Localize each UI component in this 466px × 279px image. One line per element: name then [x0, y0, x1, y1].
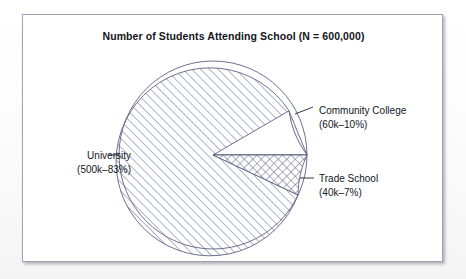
slice-label-trade-school-value: (40k–7%)	[319, 186, 378, 200]
slice-label-university-name: University	[77, 149, 131, 163]
slice-label-university: University (500k–83%)	[77, 149, 131, 177]
slice-label-university-value: (500k–83%)	[77, 163, 131, 177]
slice-label-community-college: Community College (60k–10%)	[319, 104, 406, 132]
screenshot-root: Number of Students Attending School (N =…	[0, 0, 466, 279]
pie-chart	[23, 15, 444, 263]
slice-label-trade-school: Trade School (40k–7%)	[319, 172, 378, 200]
slice-label-community-college-name: Community College	[319, 104, 406, 118]
leader-line-community-college	[295, 107, 313, 114]
figure-frame: Number of Students Attending School (N =…	[22, 14, 443, 262]
slice-label-trade-school-name: Trade School	[319, 172, 378, 186]
slice-label-community-college-value: (60k–10%)	[319, 118, 406, 132]
